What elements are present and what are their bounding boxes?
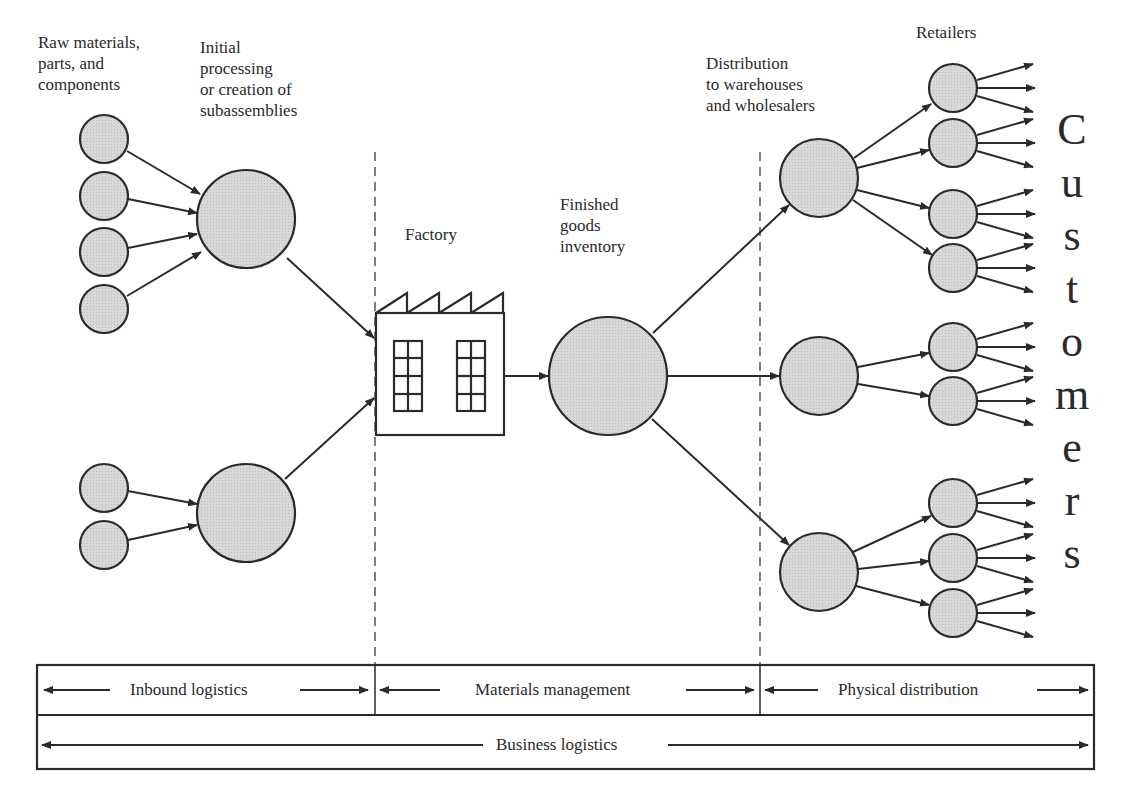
customers-letter: r — [1050, 474, 1094, 527]
retailer-node — [929, 323, 977, 371]
raw-material-node — [80, 464, 128, 512]
raw-materials-label: Raw materials, parts, and components — [38, 32, 140, 95]
finished-goods-label: Finished goods inventory — [560, 194, 625, 257]
inbound-logistics-label: Inbound logistics — [124, 680, 254, 700]
customers-letter: s — [1050, 209, 1094, 262]
factory-icon — [376, 293, 504, 435]
raw-material-node — [80, 172, 128, 220]
customers-letter: m — [1050, 368, 1094, 421]
business-logistics-label: Business logistics — [490, 735, 623, 755]
subassembly-node — [197, 170, 295, 268]
retailer-node — [929, 64, 977, 112]
retailer-node — [929, 534, 977, 582]
materials-management-label: Materials management — [469, 680, 636, 700]
finished-goods-node — [549, 317, 667, 435]
retailer-node — [929, 119, 977, 167]
raw-material-node — [80, 115, 128, 163]
warehouse-node — [780, 337, 858, 415]
customers-letter: t — [1050, 262, 1094, 315]
warehouse-node — [780, 533, 858, 611]
retailer-node — [929, 479, 977, 527]
initial-processing-label: Initial processing or creation of subass… — [200, 37, 297, 121]
warehouse-node — [780, 139, 858, 217]
raw-material-node — [80, 228, 128, 276]
customers-letter: e — [1050, 421, 1094, 474]
retailer-customer-arrows — [977, 64, 1035, 637]
retailer-node — [929, 589, 977, 637]
factory-label: Factory — [405, 224, 457, 245]
raw-material-node — [80, 521, 128, 569]
subassembly-node — [197, 464, 295, 562]
raw-material-node — [80, 285, 128, 333]
customers-letter: s — [1050, 527, 1094, 580]
customers-letter: o — [1050, 315, 1094, 368]
retailer-node — [929, 190, 977, 238]
retailer-node — [929, 377, 977, 425]
customers-letter: u — [1050, 156, 1094, 209]
physical-distribution-label: Physical distribution — [832, 680, 984, 700]
distribution-label: Distribution to warehouses and wholesale… — [706, 53, 815, 116]
retailers-label: Retailers — [916, 22, 976, 43]
retailer-node — [929, 244, 977, 292]
customers-label: C u s t o m e r s — [1050, 103, 1094, 580]
customers-letter: C — [1050, 103, 1094, 156]
